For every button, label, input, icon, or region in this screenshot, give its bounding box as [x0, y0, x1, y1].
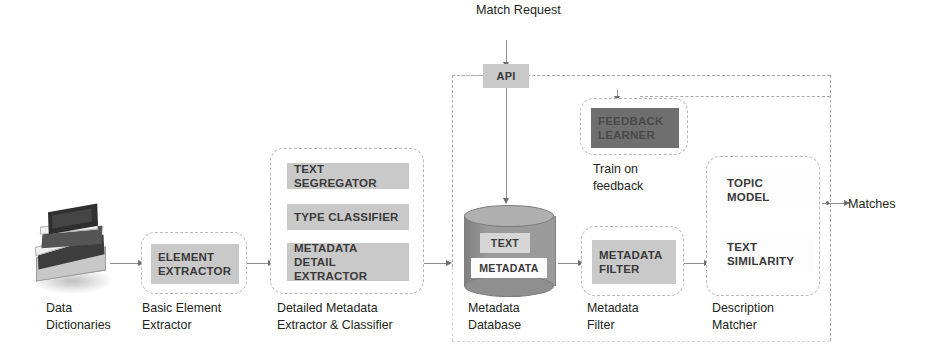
caption-feedback-learner: Train on feedback: [593, 161, 693, 194]
connector-api-vertical: [452, 75, 453, 267]
chip-db-text[interactable]: TEXT: [480, 233, 530, 253]
match-request-label: Match Request: [476, 2, 561, 19]
group-description-matcher[interactable]: TOPIC MODEL TEXT SIMILARITY: [706, 156, 820, 296]
caption-metadata-filter: Metadata Filter: [587, 300, 697, 333]
chip-text-segregator[interactable]: TEXT SEGREGATOR: [287, 163, 409, 189]
chip-db-metadata[interactable]: METADATA: [471, 258, 547, 278]
architecture-diagram: Match Request Matches: [0, 0, 927, 361]
caption-data-dictionaries: Data Dictionaries: [46, 300, 156, 333]
caption-detailed-metadata-extractor: Detailed Metadata Extractor & Classifier: [277, 300, 447, 333]
group-basic-element-extractor[interactable]: ELEMENT EXTRACTOR: [141, 232, 247, 294]
chip-element-extractor[interactable]: ELEMENT EXTRACTOR: [151, 244, 239, 284]
connector-feedback-return: [640, 96, 830, 97]
connector-match-request: [506, 40, 507, 64]
chip-feedback-learner[interactable]: FEEDBACK LEARNER: [591, 108, 679, 148]
caption-description-matcher: Description Matcher: [712, 300, 832, 333]
connector-extractor-to-detailed: [246, 263, 270, 264]
chip-type-classifier[interactable]: TYPE CLASSIFIER: [287, 204, 409, 230]
chip-metadata-filter[interactable]: METADATA FILTER: [592, 240, 676, 284]
chip-api[interactable]: API: [483, 64, 529, 88]
group-feedback-learner[interactable]: FEEDBACK LEARNER: [580, 98, 688, 155]
chip-text-similarity[interactable]: TEXT SIMILARITY: [720, 235, 814, 273]
connector-filter-to-matcher: [684, 263, 706, 264]
group-metadata-filter[interactable]: METADATA FILTER: [581, 226, 684, 296]
connector-bottom-return: [452, 341, 830, 342]
connector-db-to-filter: [558, 263, 580, 264]
matches-label: Matches: [848, 196, 896, 213]
caption-basic-element-extractor: Basic Element Extractor: [142, 300, 272, 333]
arrowhead-detailed-to-db: [446, 260, 452, 266]
connector-api-to-db: [506, 88, 507, 200]
caption-metadata-database: Metadata Database: [468, 300, 578, 333]
database-cylinder-icon[interactable]: TEXT METADATA: [464, 205, 554, 297]
connector-detailed-to-db: [424, 263, 448, 264]
arrowhead-api-to-db: [503, 198, 509, 204]
connector-books-to-extractor: [110, 263, 140, 264]
group-detailed-metadata-extractor[interactable]: TEXT SEGREGATOR TYPE CLASSIFIER METADATA…: [270, 148, 424, 294]
connector-left-bottom-vertical: [452, 267, 453, 341]
junction-dot-matches: [826, 201, 829, 204]
chip-topic-model[interactable]: TOPIC MODEL: [720, 171, 810, 209]
chip-metadata-detail-extractor[interactable]: METADATA DETAIL EXTRACTOR: [287, 243, 409, 281]
book-stack-icon: [32, 208, 112, 290]
